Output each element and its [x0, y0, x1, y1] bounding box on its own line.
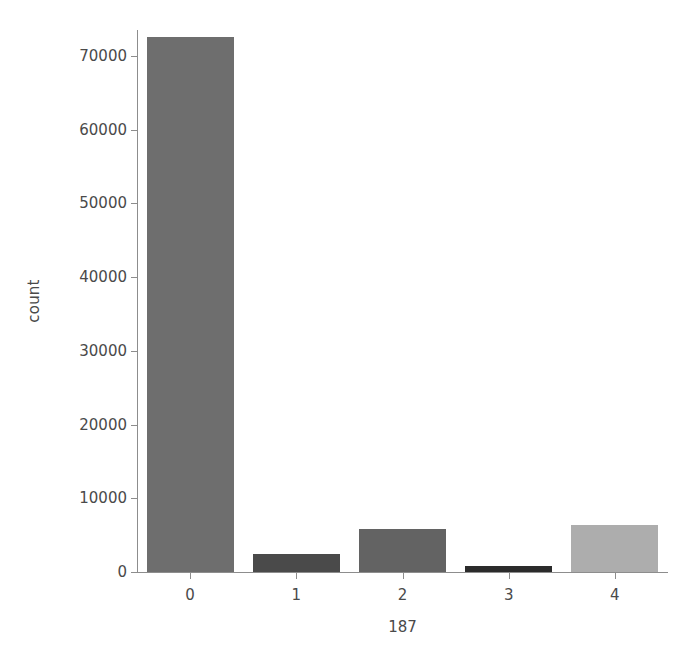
- y-tick-label: 70000: [79, 47, 127, 65]
- x-tick-label: 3: [504, 586, 514, 604]
- x-axis-label: 187: [137, 618, 668, 636]
- y-tick-label: 10000: [79, 489, 127, 507]
- bar: [465, 566, 552, 572]
- x-tick-label: 4: [610, 586, 620, 604]
- plot-area: 010000200003000040000500006000070000 012…: [137, 30, 668, 572]
- x-tick-label: 0: [185, 586, 195, 604]
- x-tick-mark: [403, 573, 404, 579]
- bar: [147, 37, 234, 572]
- x-tick-mark: [615, 573, 616, 579]
- y-tick-mark: [131, 351, 137, 352]
- bar: [253, 554, 340, 572]
- y-tick-label: 40000: [79, 268, 127, 286]
- bar: [571, 525, 658, 572]
- y-tick-label: 60000: [79, 121, 127, 139]
- y-tick-mark: [131, 56, 137, 57]
- y-tick-label: 0: [117, 563, 127, 581]
- y-tick-mark: [131, 203, 137, 204]
- x-tick-label: 2: [398, 586, 408, 604]
- y-tick-label: 20000: [79, 416, 127, 434]
- x-tick-mark: [509, 573, 510, 579]
- y-tick-label: 50000: [79, 194, 127, 212]
- y-axis-label-text: count: [25, 279, 43, 322]
- x-tick-mark: [296, 573, 297, 579]
- bar-chart-figure: count 0100002000030000400005000060000700…: [0, 0, 699, 672]
- y-tick-mark: [131, 498, 137, 499]
- y-tick-mark: [131, 277, 137, 278]
- bar: [359, 529, 446, 573]
- x-axis-label-text: 187: [388, 618, 417, 636]
- y-tick-mark: [131, 572, 137, 573]
- x-tick-mark: [190, 573, 191, 579]
- y-tick-label: 30000: [79, 342, 127, 360]
- y-axis-spine: [137, 30, 138, 572]
- y-tick-mark: [131, 425, 137, 426]
- y-axis-label: count: [18, 0, 50, 602]
- x-tick-label: 1: [292, 586, 302, 604]
- y-tick-mark: [131, 130, 137, 131]
